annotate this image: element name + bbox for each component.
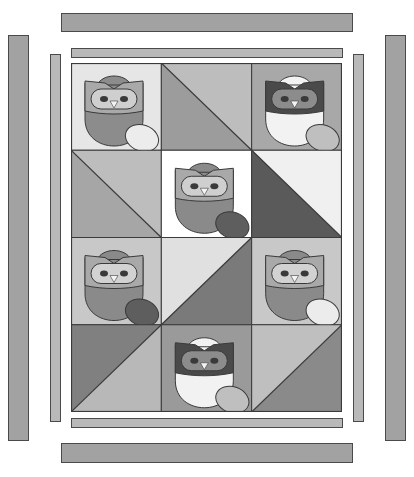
quilt-block-owl <box>161 150 252 243</box>
quilt-center <box>71 63 342 412</box>
quilt-block-triangle <box>71 325 161 412</box>
outer-border-bottom <box>61 443 353 463</box>
inner-border-bottom <box>71 418 343 428</box>
inner-border-left <box>50 54 61 422</box>
quilt-block-owl <box>71 63 162 156</box>
quilt-block-owl <box>71 238 162 331</box>
quilt-block-owl <box>161 325 252 412</box>
outer-border-left <box>8 35 29 441</box>
quilt-grid <box>71 63 342 412</box>
quilt-block-triangle <box>161 238 251 325</box>
outer-border-right <box>385 35 406 441</box>
inner-border-right <box>353 54 364 422</box>
quilt-block-triangle <box>252 325 342 412</box>
quilt-block-triangle <box>71 150 161 237</box>
quilt-block-triangle <box>252 150 342 237</box>
inner-border-top <box>71 48 343 58</box>
quilt-block-owl <box>252 63 342 156</box>
outer-border-top <box>61 13 353 32</box>
quilt-block-owl <box>252 238 342 331</box>
quilt-block-triangle <box>161 63 251 150</box>
